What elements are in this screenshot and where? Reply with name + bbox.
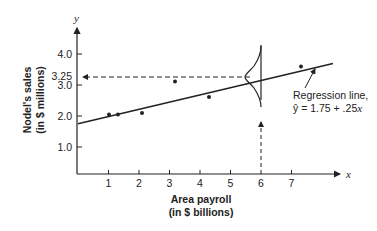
- svg-text:Nodel's sales: Nodel's sales: [21, 66, 33, 133]
- x-ticks: 1 2 3 4 5 6 7: [106, 170, 295, 189]
- x-axis-var: x: [345, 168, 351, 180]
- svg-text:7: 7: [289, 177, 295, 189]
- regression-label-line2: ŷ = 1.75 + .25x: [293, 102, 362, 114]
- annotation-arrow: [305, 69, 315, 88]
- x-axis-title-line1: Area payroll: [171, 193, 232, 205]
- svg-text:4.0: 4.0: [57, 48, 72, 60]
- svg-text:5: 5: [228, 177, 234, 189]
- data-points: [107, 65, 303, 117]
- y-axis-title: Nodel's sales (in $ millions): [21, 66, 46, 134]
- regression-chart: y x 1.0 2.0 3.0 3.25 4.0 1 2 3 4 5 6 7 A…: [0, 0, 377, 231]
- y-axis-var: y: [73, 12, 79, 24]
- svg-text:3: 3: [167, 177, 173, 189]
- svg-text:2.0: 2.0: [57, 110, 72, 122]
- svg-text:1: 1: [106, 177, 112, 189]
- svg-text:1.0: 1.0: [57, 141, 72, 153]
- svg-text:4: 4: [197, 177, 203, 189]
- svg-text:2: 2: [136, 177, 142, 189]
- svg-text:3.25: 3.25: [52, 70, 73, 82]
- x-axis-title-line2: (in $ billions): [169, 206, 234, 218]
- svg-text:(in $ millions): (in $ millions): [34, 66, 46, 134]
- regression-label-line1: Regression line,: [293, 89, 368, 101]
- svg-text:6: 6: [258, 177, 264, 189]
